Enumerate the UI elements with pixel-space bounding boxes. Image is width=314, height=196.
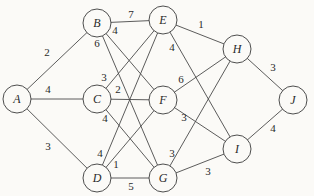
edge-weight-d-f: 1 (113, 158, 119, 170)
edge-a-d (17, 99, 97, 178)
edge-weight-f-h: 6 (178, 73, 184, 85)
edge-weight-g-h: 3 (169, 147, 175, 159)
node-label: J (290, 93, 296, 107)
node-b: B (83, 9, 111, 37)
edge-a-b (17, 23, 97, 99)
node-label: C (93, 92, 102, 106)
edge-weight-h-j: 3 (270, 61, 276, 73)
edge-weight-d-g: 5 (128, 180, 134, 192)
edge-weight-f-i: 3 (181, 111, 187, 123)
node-c: C (83, 85, 111, 113)
node-j: J (279, 86, 307, 114)
node-label: D (92, 171, 102, 185)
edge-weight-a-c: 4 (45, 83, 51, 95)
edge-b-f (97, 23, 163, 100)
edge-weight-i-j: 4 (270, 122, 276, 134)
node-label: E (158, 13, 167, 27)
edge-weight-c-g: 4 (102, 112, 108, 124)
node-label: G (159, 171, 168, 185)
node-e: E (149, 6, 177, 34)
node-a: A (3, 85, 31, 113)
node-h: H (223, 35, 251, 63)
node-i: I (223, 135, 251, 163)
node-label: F (158, 93, 167, 107)
edge-weight-e-h: 1 (198, 18, 204, 30)
node-d: D (83, 164, 111, 192)
edge-weight-d-e: 4 (97, 147, 103, 159)
node-label: H (232, 42, 243, 56)
edge-weight-c-e: 3 (101, 71, 107, 83)
edge-weight-c-f: 2 (115, 83, 121, 95)
node-f: F (149, 86, 177, 114)
edge-weight-e-i: 4 (169, 41, 175, 53)
edge-weight-a-b: 2 (44, 46, 50, 58)
edge-weight-g-i: 3 (205, 165, 211, 177)
node-label: A (12, 92, 21, 106)
edge-weight-a-d: 3 (45, 140, 51, 152)
edge-weight-b-g: 6 (94, 37, 100, 49)
edge-e-i (163, 20, 237, 149)
weighted-graph-diagram: 24374632441514633334 ABCDEFGHIJ (0, 0, 314, 196)
node-g: G (149, 164, 177, 192)
edge-weight-b-f: 4 (112, 24, 118, 36)
edge-weight-b-e: 7 (128, 8, 134, 20)
node-label: B (93, 16, 101, 30)
